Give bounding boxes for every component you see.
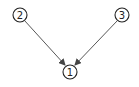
node-3-label: 3 — [119, 10, 125, 21]
node-3: 3 — [115, 8, 129, 22]
node-1: 1 — [63, 65, 77, 79]
node-1-label: 1 — [67, 67, 73, 78]
diagram-canvas: 2 3 1 — [0, 0, 139, 87]
edge-2-to-1 — [25, 21, 66, 66]
node-2-label: 2 — [17, 10, 23, 21]
edge-3-to-1 — [75, 21, 118, 66]
node-2: 2 — [13, 8, 27, 22]
